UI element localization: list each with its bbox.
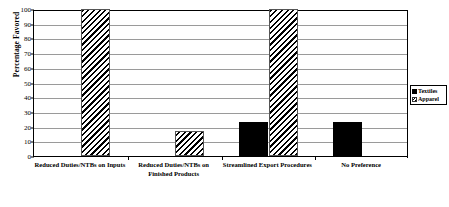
- legend-swatch-apparel-icon: [412, 97, 417, 102]
- x-axis-label-1: Reduced Duties/NTBs on Finished Products: [127, 160, 221, 178]
- y-tick-label: 0: [28, 153, 32, 161]
- legend-item-textiles: Textiles: [412, 87, 445, 95]
- bar-apparel-2: [269, 9, 298, 156]
- legend-label-apparel: Apparel: [418, 95, 439, 103]
- bar-apparel-0: [81, 9, 110, 156]
- y-tick-label: 30: [24, 109, 31, 117]
- bar-textiles-2: [239, 122, 268, 156]
- y-tick-label: 50: [24, 80, 31, 88]
- legend-label-textiles: Textiles: [418, 87, 437, 95]
- x-axis-labels: Reduced Duties/NTBs on InputsReduced Dut…: [33, 160, 408, 190]
- chart-legend: Textiles Apparel: [410, 85, 447, 105]
- y-tick-label: 60: [24, 65, 31, 73]
- y-tick-label: 80: [24, 35, 31, 43]
- bar-chart: Percentage Favored 010203040506070809010…: [0, 0, 449, 207]
- bars-layer: [34, 10, 408, 156]
- legend-swatch-textiles-icon: [412, 89, 417, 94]
- y-axis-title: Percentage Favored: [12, 0, 21, 105]
- plot-area: 0102030405060708090100: [33, 10, 408, 157]
- x-axis-label-0: Reduced Duties/NTBs on Inputs: [33, 160, 127, 169]
- y-tick-label: 100: [21, 6, 32, 14]
- y-tick-label: 90: [24, 21, 31, 29]
- x-axis-label-3: No Preference: [314, 160, 408, 169]
- x-axis-label-2: Streamlined Export Procedures: [221, 160, 315, 169]
- y-tick-label: 10: [24, 138, 31, 146]
- y-tick-label: 70: [24, 50, 31, 58]
- legend-item-apparel: Apparel: [412, 95, 445, 103]
- bar-apparel-1: [175, 131, 204, 156]
- y-tick-label: 40: [24, 94, 31, 102]
- plot-right-border: [407, 10, 408, 158]
- bar-textiles-3: [333, 122, 362, 156]
- y-tick-label: 20: [24, 124, 31, 132]
